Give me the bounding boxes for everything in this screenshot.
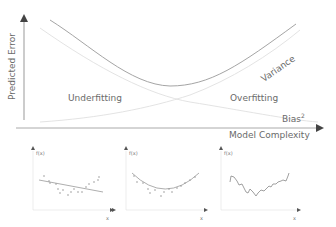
bias-exponent: 2: [301, 112, 305, 119]
underfitting-label: Underfitting: [68, 93, 122, 103]
x-axis-label: Model Complexity: [229, 130, 310, 140]
subplot-3-x-label: x: [293, 215, 296, 221]
subplot-2-x-label: x: [200, 215, 203, 221]
bias-variance-diagram: Predicted Error Model Complexity Underfi…: [0, 0, 336, 227]
subplot-2-y-label: f(x): [129, 150, 138, 156]
bias-text: Bias: [282, 114, 301, 124]
subplot-3-y-label: f(x): [224, 150, 233, 156]
x-axis-arrow-icon: [316, 124, 324, 132]
y-axis-label: Predicted Error: [7, 33, 17, 100]
overfitting-label: Overfitting: [230, 93, 278, 103]
bias-label: Bias2: [282, 112, 305, 124]
subplot-1-x-label: x: [106, 215, 109, 221]
subplot-1-y-label: f(x): [36, 150, 45, 156]
subplot-goodfit: [110, 146, 208, 212]
y-axis-arrow-icon: [20, 14, 28, 22]
